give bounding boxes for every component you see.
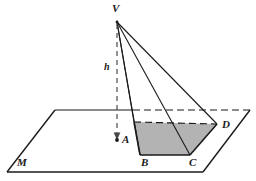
label-C: C	[189, 157, 196, 168]
label-h: h	[104, 62, 110, 72]
label-D: D	[222, 119, 230, 130]
label-A: A	[122, 134, 129, 145]
figure-canvas	[0, 0, 256, 181]
label-M: M	[17, 157, 27, 168]
label-B: B	[141, 157, 148, 168]
geometry-figure: V h A B C D M	[0, 0, 256, 181]
shaded-base-quadrilateral	[134, 122, 217, 155]
plane-left-edge	[7, 110, 55, 172]
apex-point-V-dot	[116, 21, 119, 24]
foot-point-A-dot	[115, 138, 119, 142]
label-V: V	[112, 3, 119, 14]
height-segment-h	[114, 24, 121, 142]
